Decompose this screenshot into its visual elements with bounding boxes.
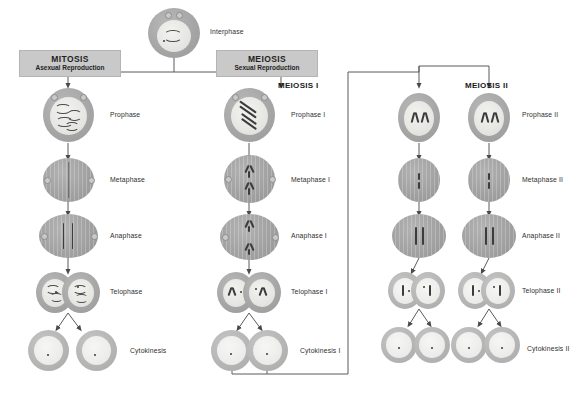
label-meiosis1-prophase: Prophase I [291, 111, 325, 118]
nucleus [419, 332, 445, 358]
cell-meiosis2-cytokinesis-4 [484, 327, 520, 363]
centrosome-icon [91, 233, 98, 240]
chromosome-icon [418, 182, 420, 189]
nucleus [217, 336, 246, 365]
centrosome-icon [41, 233, 48, 240]
centrosome-icon [176, 12, 183, 19]
label-mitosis-metaphase: Metaphase [110, 176, 145, 183]
cell-meiosis2-cytokinesis-1 [381, 327, 417, 363]
chromosome-icon [488, 182, 490, 189]
label-interphase: Interphase [210, 28, 244, 35]
cell-meiosis2-metaphase-left [398, 158, 440, 202]
chromosome-icon [248, 171, 250, 178]
nucleolus-icon [423, 286, 425, 288]
spindle-fibers-icon [462, 214, 516, 258]
nucleus [404, 101, 434, 136]
cell-meiosis2-telophase-l2 [411, 272, 445, 309]
chromosome-icon [499, 285, 501, 296]
cell-mitosis-prophase [43, 88, 94, 142]
nucleus [231, 97, 268, 135]
chromatin-icon [164, 30, 182, 42]
nucleus [253, 336, 282, 365]
nucleus [489, 332, 515, 358]
cell-meiosis1-anaphase [220, 214, 279, 260]
nucleolus-icon [478, 290, 480, 292]
cell-meiosis1-prophase [224, 88, 275, 142]
chromosome-icon [402, 285, 404, 296]
label-meiosis2-metaphase: Metaphase II [522, 176, 563, 183]
label-meiosis1-anaphase: Anaphase I [291, 232, 327, 239]
label-meiosis1-metaphase: Metaphase I [291, 176, 330, 183]
nucleolus-icon [501, 347, 503, 349]
cell-meiosis2-prophase-left [398, 93, 440, 142]
cell-meiosis1-telophase-right [243, 272, 281, 313]
cell-mitosis-cytokinesis-right [76, 330, 117, 371]
diagram-canvas: Interphase MITOSIS Asexual Reproduction … [0, 0, 574, 399]
nucleolus-icon [94, 354, 96, 356]
nucleolus-icon [55, 291, 57, 293]
cell-interphase [148, 8, 200, 58]
cell-mitosis-anaphase [39, 214, 98, 258]
nucleus [416, 278, 440, 304]
label-meiosis2-anaphase: Anaphase II [522, 232, 560, 239]
chromosome-icon [422, 227, 424, 245]
chromosome-icon [472, 285, 474, 296]
cell-meiosis2-anaphase-right [462, 214, 516, 258]
centrosome-icon [44, 177, 51, 184]
nucleus [82, 336, 111, 365]
cell-meiosis1-metaphase [224, 155, 275, 203]
nucleolus-icon [408, 290, 410, 292]
nucleolus-icon [230, 353, 232, 355]
label-mitosis-telophase: Telophase [110, 288, 142, 295]
label-meiosis1-telophase: Telophase I [291, 288, 327, 295]
header-meiosis-subtitle: Sexual Reproduction [217, 64, 317, 72]
chromosome-icon [73, 285, 87, 294]
chromosome-icon [429, 285, 431, 296]
cell-meiosis2-cytokinesis-3 [451, 327, 487, 363]
chromosome-icon [248, 226, 250, 232]
chromosome-icon [485, 227, 487, 245]
centrosome-icon [261, 94, 268, 101]
nucleolus-icon [77, 286, 79, 288]
chromosome-icon [492, 227, 494, 245]
cell-mitosis-cytokinesis-left [28, 330, 69, 371]
nucleolus-icon [163, 40, 165, 42]
chromosome-icon [418, 173, 420, 180]
nucleus [486, 278, 510, 304]
header-mitosis-title: MITOSIS [20, 54, 120, 64]
cell-meiosis1-cytokinesis-left [211, 330, 252, 371]
nucleolus-icon [255, 288, 257, 290]
nucleus [474, 101, 504, 136]
chromosome-icon [65, 122, 79, 131]
nucleus [386, 332, 412, 358]
nucleus [34, 336, 63, 365]
nucleolus-icon [398, 347, 400, 349]
centrosome-icon [269, 176, 276, 183]
header-mitosis: MITOSIS Asexual Reproduction [19, 50, 121, 77]
column-title-meiosis-one: MEIOSIS I [278, 81, 319, 90]
nucleolus-icon [468, 347, 470, 349]
cell-meiosis2-cytokinesis-2 [414, 327, 450, 363]
nucleus [249, 279, 275, 307]
spindle-fibers-icon [392, 214, 446, 258]
centrosome-icon [222, 234, 229, 241]
label-meiosis1-cytokinesis: Cytokinesis I [300, 347, 340, 354]
chromosome-icon [488, 173, 490, 180]
cell-meiosis2-telophase-r2 [481, 272, 515, 309]
centrosome-icon [225, 176, 232, 183]
chromosome-icon [75, 294, 88, 303]
label-meiosis2-telophase: Telophase II [522, 287, 560, 294]
centrosome-icon [272, 234, 279, 241]
nucleolus-icon [493, 286, 495, 288]
centrosome-icon [80, 94, 87, 101]
cell-mitosis-metaphase [43, 158, 94, 202]
chromosome-icon [415, 227, 417, 245]
centrosome-icon [232, 94, 239, 101]
chromosome-icon [248, 188, 250, 195]
centrosome-icon [88, 177, 95, 184]
header-meiosis-title: MEIOSIS [217, 54, 317, 64]
nucleolus-icon [47, 354, 49, 356]
chromosome-icon [50, 293, 63, 302]
centrosome-icon [51, 94, 58, 101]
cell-meiosis2-anaphase-left [392, 214, 446, 258]
